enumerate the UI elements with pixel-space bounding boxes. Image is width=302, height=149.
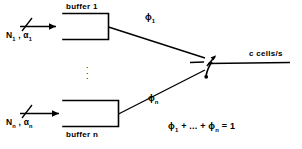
constraint-equals: = 1 xyxy=(219,121,235,131)
buffer-1-input-alpha-sub: 1 xyxy=(29,36,32,42)
phi-1-sub: 1 xyxy=(152,18,155,24)
output-link-line xyxy=(208,63,290,64)
buffer-n-weight-label: ϕn xyxy=(148,94,158,103)
output-rate-label: c cells/s xyxy=(249,50,283,58)
diagram-vector-layer xyxy=(0,0,302,149)
queueing-scheduler-figure: buffer 1 N1 , α1 ϕ1 . . . Nn , αn buffer… xyxy=(0,0,302,149)
buffer-1-output-line xyxy=(109,27,206,58)
buffer-n-title: buffer n xyxy=(66,131,98,139)
phi-n-sub: n xyxy=(155,99,159,105)
buffer-n-input-label: Nn , αn xyxy=(6,118,33,127)
buffer-n-box xyxy=(63,101,119,127)
buffer-n-input-N-sub: n xyxy=(12,123,16,129)
buffer-n-input-sep: , xyxy=(16,117,24,127)
buffer-1-input-N-sub: 1 xyxy=(12,36,15,42)
constraint-phi-1: ϕ xyxy=(168,121,175,131)
ellipsis-dot-3: . xyxy=(86,74,89,80)
buffer-1-input-label: N1 , α1 xyxy=(6,31,32,40)
phi-1-symbol: ϕ xyxy=(145,12,152,22)
constraint-plus-1: + xyxy=(178,121,189,131)
constraint-phi-n-sub: n xyxy=(215,127,219,133)
constraint-phi-1-sub: 1 xyxy=(175,127,179,133)
buffers-vertical-ellipsis: . . . xyxy=(86,63,89,80)
weight-constraint-equation: ϕ1 + ... + ϕn = 1 xyxy=(168,122,235,131)
buffer-n-input-alpha-sub: n xyxy=(29,123,33,129)
buffer-1-input-alpha: α xyxy=(23,30,28,40)
constraint-plus-2: + xyxy=(197,121,208,131)
buffer-1-box xyxy=(63,14,109,40)
buffer-1-weight-label: ϕ1 xyxy=(145,13,155,22)
buffer-n-output-line xyxy=(119,70,206,114)
phi-n-symbol: ϕ xyxy=(148,93,155,103)
buffer-1-title: buffer 1 xyxy=(66,3,98,11)
